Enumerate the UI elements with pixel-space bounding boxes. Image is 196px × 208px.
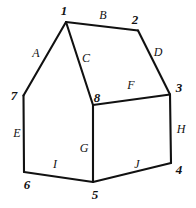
vertex-label-8: 8 [94, 91, 101, 104]
edge-i [24, 172, 93, 182]
edge-label-d: D [154, 46, 163, 58]
edge-label-g: G [80, 142, 89, 154]
vertex-label-5: 5 [92, 188, 99, 201]
edge-label-e: E [13, 127, 20, 139]
edge-h [170, 95, 171, 164]
vertex-label-2: 2 [132, 13, 139, 26]
edge-j [93, 163, 171, 182]
edge-e [24, 96, 25, 173]
vertex-label-1: 1 [61, 4, 68, 17]
edge-label-f: F [127, 79, 134, 91]
vertex-label-6: 6 [24, 178, 31, 191]
edge-label-b: B [99, 9, 106, 21]
edge-label-i: I [53, 158, 57, 170]
edge-label-c: C [82, 52, 90, 64]
edge-a [24, 22, 67, 96]
vertex-label-3: 3 [176, 81, 183, 94]
edge-label-j: J [134, 158, 139, 170]
edge-label-a: A [32, 47, 39, 59]
vertex-label-4: 4 [176, 163, 183, 176]
edge-label-h: H [177, 123, 186, 135]
house-figure-canvas: ABCDEFGHIJ 12345678 [0, 0, 196, 208]
vertex-label-7: 7 [11, 89, 18, 102]
edge-d [138, 31, 170, 95]
edge-f [93, 95, 170, 106]
edge-b [66, 22, 138, 31]
